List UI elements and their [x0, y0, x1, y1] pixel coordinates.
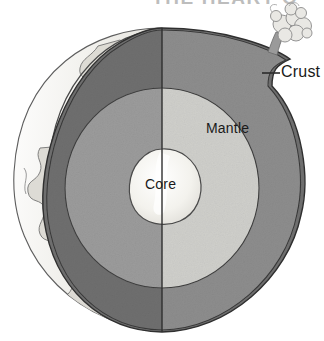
label-mantle: Mantle	[206, 120, 249, 136]
label-core: Core	[145, 176, 176, 192]
volcanic-eruption-plume	[268, 3, 312, 55]
earth-cutaway-figure: THE HEART O	[0, 0, 324, 341]
label-crust: Crust	[281, 63, 320, 81]
earth-diagram-svg	[0, 0, 324, 341]
